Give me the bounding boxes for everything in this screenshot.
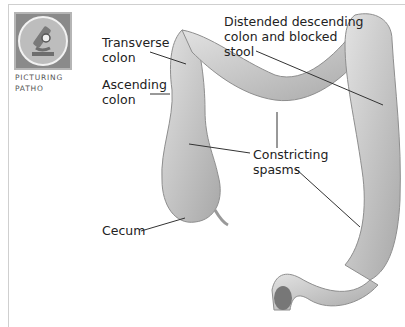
label-line: colon and blocked [224, 29, 364, 44]
label-cecum: Cecum [102, 223, 145, 238]
label-transverse-colon: Transverse colon [102, 35, 169, 65]
label-line: spasms [253, 162, 328, 177]
label-line: Cecum [102, 223, 145, 238]
label-line: Constricting [253, 147, 328, 162]
label-line: colon [102, 50, 169, 65]
label-constricting-spasms: Constricting spasms [253, 147, 328, 177]
label-distended-descending-colon: Distended descending colon and blocked s… [224, 14, 364, 59]
label-line: colon [102, 92, 167, 107]
label-line: Transverse [102, 35, 169, 50]
label-line: Distended descending [224, 14, 364, 29]
label-line: stool [224, 44, 364, 59]
label-ascending-colon: Ascending colon [102, 77, 167, 107]
label-line: Ascending [102, 77, 167, 92]
